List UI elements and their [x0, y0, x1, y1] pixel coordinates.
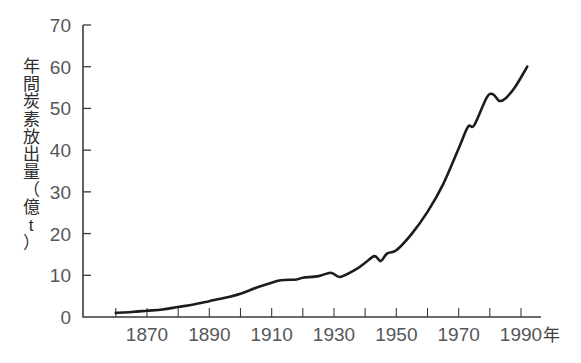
y-tick-label-group: 010203040506070 [50, 15, 71, 328]
x-tick-label: 1930 [313, 324, 355, 345]
x-tick-label: 1910 [251, 324, 293, 345]
y-axis-label-char-3: 素 [18, 111, 44, 129]
y-axis-label: 年 間 炭 素 放 出 量 （ 億 t ） [18, 58, 44, 252]
x-tick-mark-group [116, 308, 521, 317]
x-axis-unit-label: 年 [543, 326, 560, 345]
y-tick-label: 10 [50, 265, 71, 286]
y-tick-label: 60 [50, 57, 71, 78]
x-tick-label: 1950 [375, 324, 417, 345]
axis-lines [83, 25, 541, 317]
y-axis-label-char-4: 放 [18, 129, 44, 147]
y-tick-label: 50 [50, 98, 71, 119]
y-axis-label-char-10: ） [18, 235, 44, 253]
y-axis-label-char-2: 炭 [18, 93, 44, 111]
y-tick-label: 20 [50, 224, 71, 245]
x-tick-label: 1970 [438, 324, 480, 345]
chart-plot-area: 010203040506070 187018901910193019501970… [0, 0, 581, 363]
y-axis-label-char-5: 出 [18, 146, 44, 164]
y-axis-label-char-0: 年 [18, 58, 44, 76]
x-tick-label: 1890 [188, 324, 230, 345]
chart-container: 年 間 炭 素 放 出 量 （ 億 t ） 010203040506070 18… [0, 0, 581, 363]
y-tick-label: 70 [50, 15, 71, 36]
y-axis-label-char-1: 間 [18, 76, 44, 94]
y-axis-label-char-7: （ [18, 182, 44, 200]
x-tick-label: 1870 [126, 324, 168, 345]
y-tick-mark-group [83, 25, 91, 275]
y-tick-label: 30 [50, 182, 71, 203]
x-tick-label-group: 1870189019101930195019701990 [126, 324, 542, 345]
y-axis-label-char-8: 億 [18, 199, 44, 217]
y-axis-label-char-9: t [18, 217, 44, 235]
y-axis-label-char-6: 量 [18, 164, 44, 182]
y-tick-label: 40 [50, 140, 71, 161]
emissions-line-series [116, 67, 527, 313]
y-tick-label: 0 [60, 307, 71, 328]
x-tick-label: 1990 [500, 324, 542, 345]
